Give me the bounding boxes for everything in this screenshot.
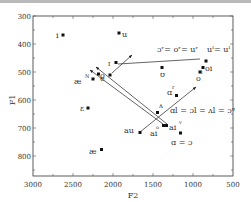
x-tick-1000: 1000 [184, 181, 202, 189]
annotation-lateral-u: uˡ= uˡ [207, 45, 230, 54]
point-ai [162, 124, 168, 127]
point-ae-n [92, 78, 95, 81]
point-a-eq-o [179, 132, 182, 135]
x-tick-1500: 1500 [144, 181, 162, 189]
label-a-eq-o: ɑ = ɔ [171, 138, 193, 147]
y-tick-labels: 300 400 500 600 700 800 [18, 13, 31, 161]
point-epsilon [87, 107, 90, 110]
x-tick-500: 500 [226, 181, 239, 189]
label-epsilon: ɛ [80, 104, 84, 113]
point-i [62, 34, 65, 37]
x-tick-2500: 2500 [64, 181, 82, 189]
label-wedge: ʌ [158, 102, 163, 110]
x-axis-title: F2 [128, 191, 139, 200]
shift-lines [90, 55, 200, 132]
label-I: ɪ [108, 60, 111, 68]
point-I [115, 61, 118, 64]
y-tick-700: 700 [18, 125, 31, 133]
label-i: i [56, 31, 59, 40]
label-ae-n: æ [74, 77, 82, 86]
label-r-sup: r [172, 84, 175, 90]
label-n-sup: N [85, 73, 90, 79]
label-o-l: o [196, 74, 201, 83]
label-ai-v: ai [169, 123, 177, 132]
annotation-rhotic-merge: ɔʳ= oʳ= uʳ [157, 45, 198, 54]
point-wedge [156, 111, 159, 114]
point-ae [100, 148, 103, 151]
vowel-formant-chart: 300 400 500 600 700 800 3000 2500 2000 1… [0, 0, 251, 202]
label-ae: æ [89, 147, 97, 156]
label-v-sup: v [178, 119, 182, 125]
label-au: au [124, 126, 134, 135]
y-tick-500: 500 [18, 69, 31, 77]
x-axis-ticks [53, 16, 213, 176]
y-tick-400: 400 [18, 41, 31, 49]
label-l-sup: l [201, 69, 203, 75]
y-tick-800: 800 [18, 153, 31, 161]
plot-frame [33, 16, 233, 176]
point-a-r [175, 94, 178, 97]
x-tick-3000: 3000 [24, 181, 42, 189]
label-oi: oi [205, 64, 213, 73]
label-upsilon: ʊ [160, 70, 165, 79]
y-axis-ticks [33, 16, 233, 170]
label-o-left: o [100, 71, 105, 80]
point-u-l [205, 60, 208, 63]
y-tick-300: 300 [18, 13, 31, 21]
point-upsilon [161, 66, 164, 69]
rhotic-merge-line [118, 59, 200, 64]
arrow-ai-to-e [96, 67, 167, 124]
point-au [139, 131, 142, 134]
point-u [118, 32, 121, 35]
y-axis-title: F1 [8, 95, 17, 106]
point-o [109, 74, 112, 77]
label-ai-o: ai [150, 129, 158, 138]
x-tick-labels: 3000 2500 2000 1500 1000 500 [24, 181, 240, 189]
annotation-lateral-merge: ɑl = ɔl = ʌl = ɔᵍ [170, 106, 236, 115]
label-o-sup: o [156, 124, 159, 130]
x-tick-2000: 2000 [104, 181, 122, 189]
label-u: u [122, 30, 127, 39]
y-tick-600: 600 [18, 97, 31, 105]
